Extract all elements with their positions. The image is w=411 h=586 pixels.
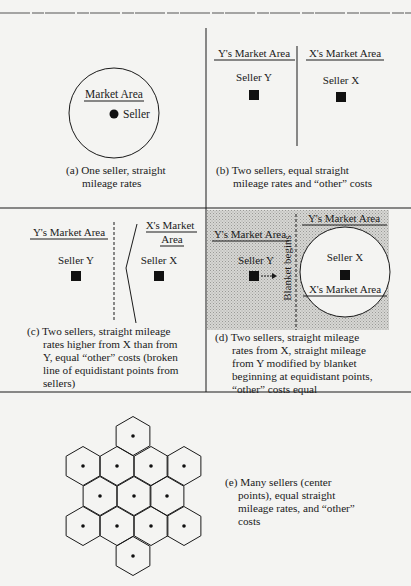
caption-d: (d) Two sellers, straight mileage rates … — [215, 331, 410, 396]
caption-c-line: (c) Two sellers, straight mileage — [27, 325, 207, 338]
seller-center-point — [81, 464, 85, 468]
seller-y-label: Seller Y — [236, 71, 272, 83]
seller-y-label: Seller Y — [238, 254, 274, 266]
seller-y-square — [249, 90, 259, 100]
market-area-label: Market Area — [85, 88, 143, 100]
caption-d-line: from Y modified by blanket — [215, 357, 410, 370]
panel-b: Y's Market Area X's Market Area Seller Y… — [214, 46, 384, 146]
seller-center-point — [132, 494, 136, 498]
seller-x-square — [154, 271, 164, 281]
caption-a: (a) One seller, straight mileage rates — [66, 164, 206, 190]
seller-center-point — [149, 464, 153, 468]
seller-dot — [110, 110, 119, 119]
caption-b-line2: mileage rates and “other” costs — [216, 177, 406, 190]
seller-center-point — [115, 464, 119, 468]
x-market-area-label-line1: X's Market — [146, 219, 195, 231]
panel-c: Y's Market Area X's Market Area Seller Y… — [30, 219, 197, 323]
caption-e: (e) Many sellers (center points), equal … — [225, 476, 405, 528]
market-boundary-curve — [126, 224, 137, 323]
caption-c-line: line of equidistant points from — [27, 364, 207, 377]
seller-center-point — [81, 524, 85, 528]
seller-x-label: Seller X — [141, 254, 177, 266]
seller-center-point — [182, 464, 186, 468]
caption-e-line: mileage rates, and “other” — [225, 502, 405, 515]
hexagonal-market-grid — [66, 417, 201, 576]
panel-d: Y's Market Area Y's Market Area Seller Y… — [207, 210, 390, 330]
seller-y-label: Seller Y — [58, 254, 94, 266]
seller-y-square — [71, 271, 81, 281]
caption-e-line: (e) Many sellers (center — [225, 476, 405, 489]
seller-center-point — [165, 494, 169, 498]
caption-c: (c) Two sellers, straight mileage rates … — [27, 325, 207, 390]
caption-a-line2: mileage rates — [66, 177, 206, 190]
caption-d-line: rates from X, straight mileage — [215, 344, 410, 357]
x-market-area-label: X's Market Area — [309, 283, 381, 295]
caption-d-line: (d) Two sellers, straight mileage — [215, 331, 410, 344]
caption-d-line: beginning at equidistant points, — [215, 370, 410, 383]
seller-center-point — [131, 554, 135, 558]
seller-center-point — [182, 524, 186, 528]
blanket-begins-label: Blanket begins — [281, 235, 293, 301]
caption-b-line1: (b) Two sellers, equal straight — [216, 164, 406, 177]
seller-center-point — [131, 434, 135, 438]
caption-c-line: Y, equal “other” costs (broken — [27, 351, 207, 364]
caption-e-line: costs — [225, 515, 405, 528]
caption-a-line1: (a) One seller, straight — [66, 164, 206, 177]
caption-c-line: rates higher from X than from — [27, 338, 207, 351]
seller-y-square — [249, 271, 259, 281]
y-market-area-label-left: Y's Market Area — [214, 228, 286, 240]
caption-d-line: “other” costs equal — [215, 383, 410, 396]
x-market-area-label: X's Market Area — [309, 47, 381, 59]
y-market-area-label: Y's Market Area — [33, 226, 105, 238]
caption-c-line: sellers) — [27, 377, 207, 390]
caption-b: (b) Two sellers, equal straight mileage … — [216, 164, 406, 190]
seller-x-label: Seller X — [327, 251, 363, 263]
seller-x-square — [340, 270, 350, 280]
x-market-area-label-line2: Area — [161, 233, 182, 245]
caption-e-line: points), equal straight — [225, 489, 405, 502]
seller-x-label: Seller X — [323, 74, 359, 86]
y-market-area-label: Y's Market Area — [218, 47, 290, 59]
panel-a: Market Area Seller — [69, 68, 159, 158]
seller-center-point — [149, 524, 153, 528]
seller-center-point — [98, 494, 102, 498]
seller-label: Seller — [123, 108, 150, 120]
seller-x-square — [336, 92, 346, 102]
y-market-area-label-top: Y's Market Area — [308, 212, 380, 224]
seller-center-point — [115, 524, 119, 528]
